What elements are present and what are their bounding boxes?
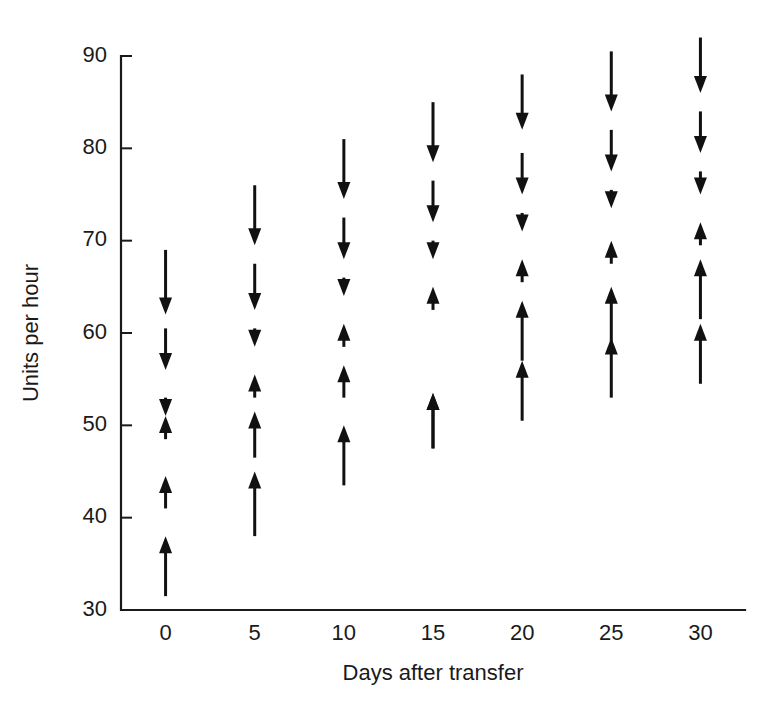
arrow-20-0 [516,74,529,129]
y-tick-label-30: 30 [83,596,107,621]
arrow-25-2 [605,190,618,208]
arrow-0-0 [159,250,172,315]
arrow-30-2 [694,171,707,194]
arrow-cluster-day-30 [694,38,707,384]
arrow-30-0 [694,38,707,93]
arrow-markers [159,38,707,597]
arrow-20-1 [516,153,529,195]
arrow-0-5 [159,536,172,596]
arrow-cluster-day-20 [516,74,529,420]
y-tick-label-80: 80 [83,134,107,159]
arrow-20-5 [516,361,529,421]
arrow-10-3 [337,324,350,347]
arrow-5-3 [248,375,261,398]
x-tick-label-20: 20 [510,620,534,645]
y-tick-label-40: 40 [83,503,107,528]
arrow-10-0 [337,139,350,199]
arrow-0-1 [159,328,172,370]
chart-plot-area: 30405060708090051015202530 Days after tr… [0,0,782,708]
arrow-5-5 [248,472,261,537]
arrow-cluster-day-15 [427,102,440,448]
arrow-15-3 [427,287,440,310]
arrow-30-4 [694,259,707,319]
y-axis-title: Units per hour [18,264,43,402]
x-tick-label-30: 30 [688,620,712,645]
x-axis-title: Days after transfer [343,660,524,685]
arrow-20-4 [516,301,529,361]
arrow-5-4 [248,411,261,457]
arrow-0-2 [159,398,172,416]
arrow-15-1 [427,181,440,223]
arrow-30-1 [694,111,707,153]
arrow-25-0 [605,51,618,111]
arrow-25-1 [605,130,618,172]
arrow-15-2 [427,241,440,259]
arrow-30-3 [694,222,707,245]
x-tick-label-15: 15 [421,620,445,645]
y-tick-label-70: 70 [83,226,107,251]
arrow-0-4 [159,476,172,508]
arrow-25-3 [605,241,618,264]
arrow-cluster-day-0 [159,250,172,596]
arrow-30-5 [694,324,707,384]
arrow-25-4 [605,287,618,342]
arrow-cluster-day-5 [248,185,261,536]
axis-tick-labels: 30405060708090051015202530 [83,42,713,645]
arrow-0-3 [159,416,172,439]
arrow-5-0 [248,185,261,245]
arrow-5-2 [248,328,261,346]
arrow-10-1 [337,218,350,260]
arrow-10-4 [337,365,350,397]
arrow-20-3 [516,259,529,282]
arrow-cluster-day-25 [605,51,618,397]
arrow-25-5 [605,338,618,398]
arrow-5-1 [248,264,261,310]
arrow-10-5 [337,425,350,485]
x-tick-label-5: 5 [249,620,261,645]
arrow-cluster-day-10 [337,139,350,485]
x-tick-label-0: 0 [159,620,171,645]
x-tick-label-10: 10 [332,620,356,645]
arrow-10-2 [337,278,350,296]
chart-figure: 30405060708090051015202530 Days after tr… [0,0,782,708]
y-tick-label-90: 90 [83,42,107,67]
x-tick-label-25: 25 [599,620,623,645]
y-tick-label-60: 60 [83,319,107,344]
arrow-15-5 [427,393,440,448]
axis-ticks [121,56,132,610]
arrow-15-0 [427,102,440,162]
y-tick-label-50: 50 [83,411,107,436]
arrow-20-2 [516,213,529,231]
